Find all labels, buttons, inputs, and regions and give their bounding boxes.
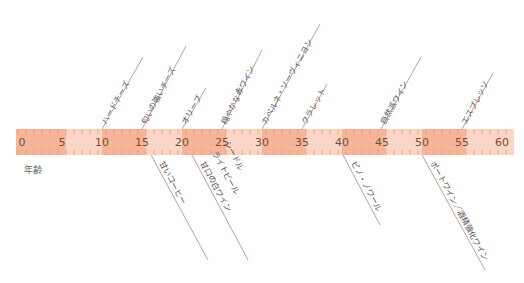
tick-label: 15 <box>135 136 149 149</box>
items-below-axis: 甘いコーヒー甘口の白ワインライトビールシードルピノ・ノワールポートワイン／酒精強… <box>151 140 491 270</box>
axis-title: 年齢 <box>24 163 42 176</box>
item-below: ポートワイン／酒精強化ワイン <box>422 155 491 270</box>
tick-label: 60 <box>495 136 509 149</box>
tick-label: 10 <box>95 136 109 149</box>
item-label: 匂いの強いチーズ <box>139 65 178 126</box>
items-above-axis: ハードチーズ匂いの強いチーズオリーブ穏やかな赤ワインカベルネ・ソーヴィニヨンクラ… <box>99 24 493 129</box>
item-label: 穏やかな赤ワイン <box>219 64 257 126</box>
tick-label: 40 <box>335 136 349 149</box>
tick-label: 45 <box>375 136 389 149</box>
item-above: オリーブ <box>179 88 206 129</box>
item-above: 匂いの強いチーズ <box>139 46 186 129</box>
item-above: 穏やかな赤ワイン <box>219 50 262 129</box>
tick-label: 35 <box>295 136 309 149</box>
item-above: クラレット <box>300 84 327 129</box>
item-label: オリーブ <box>179 93 204 126</box>
item-above: エスプレッソ <box>460 73 493 129</box>
tick-label: 30 <box>255 136 269 149</box>
item-above: ハードチーズ <box>99 57 143 129</box>
taste-age-diagram: 051015202530354045505560 ハードチーズ匂いの強いチーズオ… <box>0 0 524 283</box>
item-label: クラレット <box>300 87 327 126</box>
tick-label: 0 <box>19 136 26 149</box>
item-above: 自然派ワイン <box>378 57 421 129</box>
item-label: 自然派ワイン <box>378 79 410 126</box>
tick-label: 5 <box>59 136 66 149</box>
item-below: 甘口の白ワインライトビールシードル <box>192 140 248 260</box>
tick-label: 20 <box>175 136 189 149</box>
item-below: 甘いコーヒー <box>151 155 208 260</box>
item-below: ピノ・ノワール <box>343 155 383 225</box>
item-label: ハードチーズ <box>99 79 131 126</box>
item-label: ピノ・ノワール <box>349 160 383 214</box>
item-label: ポートワイン／酒精強化ワイン <box>428 159 491 262</box>
item-label: エスプレッソ <box>460 80 491 126</box>
tick-label: 50 <box>415 136 429 149</box>
tick-label: 55 <box>455 136 469 149</box>
item-label: 甘いコーヒー <box>157 159 189 206</box>
